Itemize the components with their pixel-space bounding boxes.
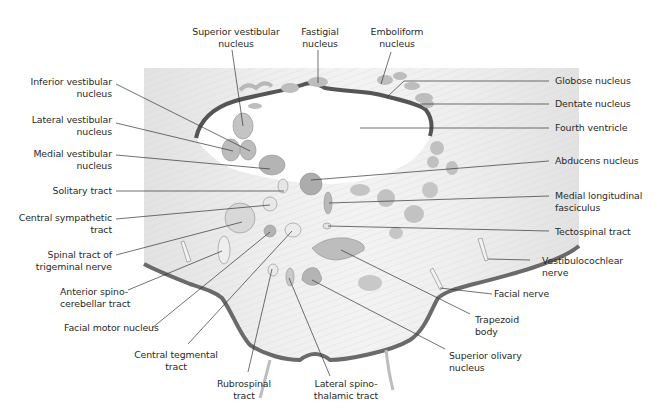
label-central-sympathetic-tract: Central sympathetic tract [0, 212, 112, 235]
label-fastigial-nucleus: Fastigial nucleus [290, 26, 350, 49]
label-emboliform-nucleus: Emboliform nucleus [362, 26, 432, 49]
label-solitary-tract: Solitary tract [0, 185, 112, 197]
lateral-vestibular-nucleus-shape [222, 139, 240, 161]
rubrospinal-shape [268, 264, 278, 276]
central-tegmental-shape [285, 223, 301, 237]
label-facial-motor-nucleus: Facial motor nucleus [64, 322, 184, 334]
label-lateral-vestibular-nucleus: Lateral vestibular nucleus [0, 114, 112, 137]
medial-vestibular-nucleus-shape [259, 155, 285, 175]
label-medial-vestibular-nucleus: Medial vestibular nucleus [0, 148, 112, 171]
label-facial-nerve: Facial nerve [494, 288, 574, 300]
label-anterior-spinocerebellar-tract: Anterior spino- cerebellar tract [60, 286, 180, 309]
label-medial-longitudinal-fasciculus: Medial longitudinal fasciculus [555, 190, 659, 213]
label-trapezoid-body: Trapezoid body [475, 314, 535, 337]
label-superior-vestibular-nucleus: Superior vestibular nucleus [176, 26, 296, 49]
label-lateral-spinothalamic-tract: Lateral spino- thalamic tract [306, 378, 386, 401]
label-superior-olivary-nucleus: Superior olivary nucleus [449, 350, 549, 373]
label-inferior-vestibular-nucleus: Inferior vestibular nucleus [0, 76, 112, 99]
label-spinal-tract-trigeminal-nerve: Spinal tract of trigeminal nerve [0, 249, 112, 272]
central-sympathetic-shape [263, 197, 277, 211]
lateral-spinothalamic-shape [286, 268, 294, 286]
label-vestibulocochlear-nerve: Vestibulocochlear nerve [542, 255, 652, 278]
label-rubrospinal-tract: Rubrospinal tract [214, 378, 274, 401]
label-abducens-nucleus: Abducens nucleus [555, 155, 659, 167]
abducens-nucleus-shape [300, 173, 322, 195]
label-central-tegmental-tract: Central tegmental tract [126, 349, 226, 372]
label-globose-nucleus: Globose nucleus [555, 75, 659, 87]
anterior-spinocerebellar-shape [218, 236, 230, 264]
label-dentate-nucleus: Dentate nucleus [555, 98, 659, 110]
label-tectospinal-tract: Tectospinal tract [555, 226, 659, 238]
label-fourth-ventricle: Fourth ventricle [555, 122, 659, 134]
